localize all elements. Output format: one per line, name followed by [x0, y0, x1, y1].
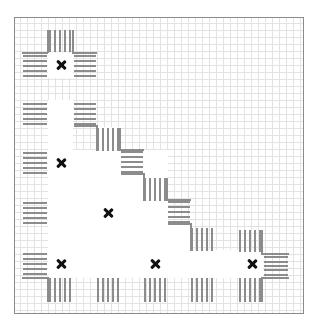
outer-frame [14, 17, 304, 314]
diagram-canvas [0, 0, 317, 324]
